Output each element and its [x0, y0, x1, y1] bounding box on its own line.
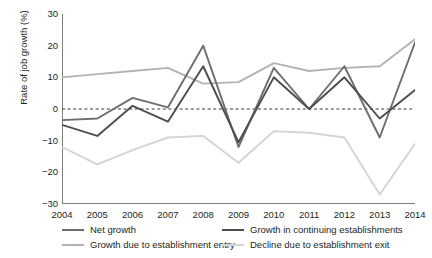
y-tick-label: 30 — [32, 9, 58, 19]
legend-line-swatch — [62, 244, 84, 246]
legend-line-swatch — [222, 244, 244, 246]
series-canvas — [62, 14, 415, 204]
plot-area — [62, 14, 415, 204]
x-tick-label: 2014 — [398, 210, 432, 220]
chart-legend: Net growthGrowth in continuing establish… — [0, 224, 432, 258]
x-tick-label: 2009 — [222, 210, 256, 220]
y-tick-label: 10 — [32, 72, 58, 82]
legend-item[interactable]: Decline due to establishment exit — [222, 240, 389, 250]
y-tick-label: −10 — [32, 136, 58, 146]
x-axis-tick-labels: 2004200520062007200820092010201120122013… — [0, 206, 432, 222]
y-tick-label: 20 — [32, 41, 58, 51]
x-tick-label: 2011 — [292, 210, 326, 220]
legend-label: Net growth — [90, 225, 136, 235]
x-tick-label: 2013 — [363, 210, 397, 220]
series-line — [62, 43, 415, 148]
x-tick-label: 2010 — [257, 210, 291, 220]
y-axis-title: Rate of job growth (%) — [18, 0, 29, 133]
legend-item[interactable]: Growth in continuing establishments — [222, 225, 403, 235]
series-line — [62, 66, 415, 142]
x-tick-label: 2004 — [45, 210, 79, 220]
y-tick-label: −20 — [32, 167, 58, 177]
legend-item[interactable]: Growth due to establishment entry — [62, 240, 235, 250]
legend-item[interactable]: Net growth — [62, 225, 136, 235]
legend-line-swatch — [222, 229, 244, 231]
series-line — [62, 39, 415, 83]
chart-figure: Rate of job growth (%) 3020100−10−20−30 … — [0, 0, 432, 258]
legend-line-swatch — [62, 229, 84, 231]
y-tick-label: 0 — [32, 104, 58, 114]
x-tick-label: 2007 — [151, 210, 185, 220]
x-tick-label: 2012 — [327, 210, 361, 220]
x-tick-label: 2008 — [186, 210, 220, 220]
legend-label: Decline due to establishment exit — [250, 240, 389, 250]
x-tick-label: 2005 — [80, 210, 114, 220]
x-tick-label: 2006 — [116, 210, 150, 220]
legend-label: Growth due to establishment entry — [90, 240, 235, 250]
legend-label: Growth in continuing establishments — [250, 225, 403, 235]
